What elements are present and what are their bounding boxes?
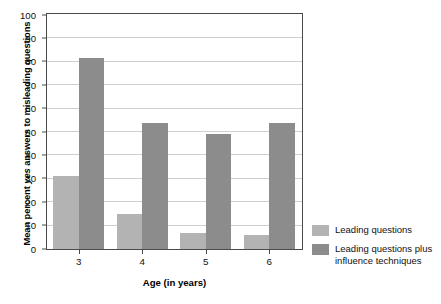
bar bbox=[180, 233, 206, 249]
y-tick-label: 70 bbox=[25, 79, 36, 90]
x-axis-title: Age (in years) bbox=[46, 277, 303, 288]
x-tick-label: 4 bbox=[140, 256, 145, 267]
y-tick-label: 90 bbox=[25, 32, 36, 43]
y-axis-ticks: 0102030405060708090100 bbox=[0, 13, 42, 250]
x-tick-label: 5 bbox=[203, 256, 208, 267]
bar bbox=[206, 134, 232, 249]
legend-swatch-icon bbox=[312, 244, 329, 255]
bar bbox=[53, 176, 79, 249]
bar bbox=[117, 214, 143, 249]
y-tick-label: 0 bbox=[31, 243, 36, 254]
x-tick-label: 6 bbox=[267, 256, 272, 267]
y-tick-label: 10 bbox=[25, 220, 36, 231]
legend-item[interactable]: Leading questions plus influence techniq… bbox=[312, 243, 441, 266]
x-tick-mark bbox=[206, 250, 207, 254]
bars-layer bbox=[47, 14, 302, 249]
x-tick-label: 3 bbox=[76, 256, 81, 267]
x-tick-mark bbox=[269, 250, 270, 254]
y-tick-label: 100 bbox=[20, 9, 36, 20]
y-tick-label: 60 bbox=[25, 103, 36, 114]
bar bbox=[142, 123, 168, 249]
legend-label: Leading questions plus influence techniq… bbox=[335, 243, 441, 266]
chart-legend: Leading questionsLeading questions plus … bbox=[312, 224, 441, 273]
y-tick-label: 40 bbox=[25, 149, 36, 160]
legend-swatch-icon bbox=[312, 225, 329, 236]
legend-item[interactable]: Leading questions bbox=[312, 224, 441, 236]
y-tick-label: 50 bbox=[25, 126, 36, 137]
x-tick-mark bbox=[142, 250, 143, 254]
legend-label: Leading questions bbox=[335, 224, 412, 236]
plot-area bbox=[46, 13, 303, 250]
y-tick-label: 20 bbox=[25, 196, 36, 207]
bar bbox=[244, 235, 270, 249]
bar-chart-figure: Mean percent yes answers to misleading q… bbox=[0, 0, 441, 304]
y-tick-label: 30 bbox=[25, 173, 36, 184]
bar bbox=[79, 58, 105, 249]
y-tick-label: 80 bbox=[25, 56, 36, 67]
x-tick-mark bbox=[79, 250, 80, 254]
bar bbox=[269, 123, 295, 249]
x-axis-ticks: 3456 bbox=[47, 250, 301, 270]
